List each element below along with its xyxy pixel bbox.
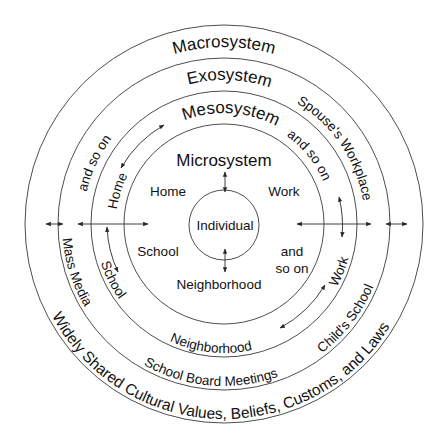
micro-home-label: Home <box>150 184 186 199</box>
meso-work-label: Work <box>326 254 351 288</box>
meso-and-so-on-label: and so on <box>285 126 335 183</box>
meso-home-label: Home <box>105 170 130 210</box>
meso-lower-right-curved-arrow-icon <box>280 285 325 328</box>
exo-school-board-meetings-label: School Board Meetings <box>142 354 280 389</box>
meso-right-curved-arrow-icon <box>339 197 343 237</box>
micro-work-label: Work <box>268 184 300 199</box>
macrosystem-title: Macrosystem <box>170 32 277 58</box>
microsystem-title: Microsystem <box>176 151 271 170</box>
micro-school-label: School <box>137 244 178 259</box>
micro-and-label: and <box>281 244 304 259</box>
meso-school-label: School <box>98 259 129 302</box>
diagram-canvas: Macrosystem Exosystem Mesosystem and so … <box>0 0 447 447</box>
individual-label: Individual <box>196 218 253 233</box>
mesosystem-title: Mesosystem <box>180 98 283 130</box>
meso-upper-left-curved-arrow-icon <box>121 125 164 168</box>
micro-neighborhood-label: Neighborhood <box>177 277 262 292</box>
ecological-systems-diagram: Macrosystem Exosystem Mesosystem and so … <box>0 0 447 447</box>
exosystem-title: Exosystem <box>185 65 274 91</box>
micro-so-on-label: so on <box>275 261 308 276</box>
meso-neighborhood-label: Neighborhood <box>168 330 253 356</box>
